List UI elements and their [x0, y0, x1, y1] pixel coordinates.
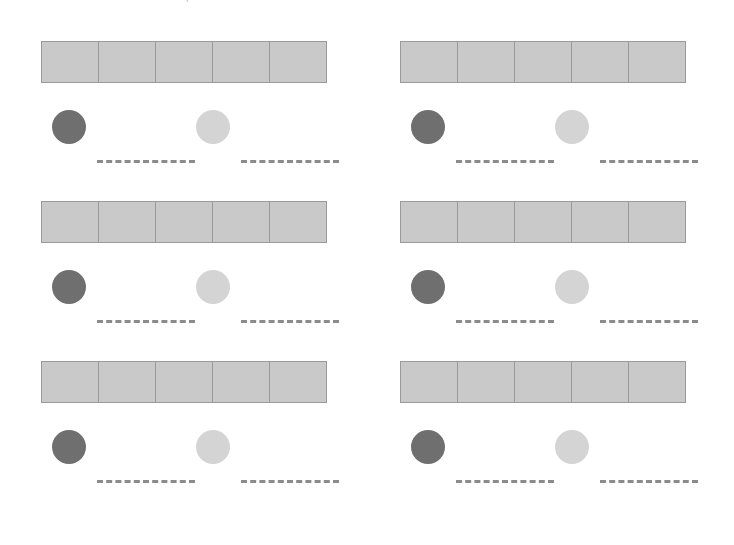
answer-row: [397, 110, 707, 168]
square-cell[interactable]: [571, 41, 629, 83]
square-strip: [400, 361, 686, 403]
exercise-group: [38, 38, 348, 178]
square-cell[interactable]: [457, 361, 515, 403]
answer-line[interactable]: [600, 160, 698, 163]
answer-slot: [411, 430, 559, 488]
answer-line[interactable]: [97, 160, 195, 163]
square-cell[interactable]: [98, 361, 156, 403]
square-cell[interactable]: [212, 201, 270, 243]
exercise-group: [38, 198, 348, 338]
answer-line[interactable]: [241, 160, 339, 163]
dark-token-circle-icon[interactable]: [411, 430, 445, 464]
answer-slot: [196, 430, 344, 488]
dark-token-circle-icon[interactable]: [411, 110, 445, 144]
square-cell[interactable]: [41, 201, 99, 243]
square-cell[interactable]: [628, 361, 686, 403]
answer-slot: [555, 270, 703, 328]
answer-slot: [52, 270, 200, 328]
square-strip: [400, 201, 686, 243]
square-strip: [41, 201, 327, 243]
square-cell[interactable]: [571, 201, 629, 243]
answer-slot: [52, 110, 200, 168]
square-cell[interactable]: [457, 201, 515, 243]
square-cell[interactable]: [269, 361, 327, 403]
square-cell[interactable]: [155, 201, 213, 243]
square-cell[interactable]: [155, 361, 213, 403]
answer-row: [397, 430, 707, 488]
light-token-circle-icon[interactable]: [196, 270, 230, 304]
square-strip: [400, 41, 686, 83]
answer-row: [397, 270, 707, 328]
square-cell[interactable]: [41, 41, 99, 83]
answer-line[interactable]: [600, 480, 698, 483]
square-cell[interactable]: [269, 41, 327, 83]
answer-row: [38, 430, 348, 488]
square-strip: [41, 361, 327, 403]
answer-slot: [196, 270, 344, 328]
exercise-grid: [0, 0, 734, 545]
square-cell[interactable]: [212, 361, 270, 403]
exercise-group: [38, 358, 348, 498]
answer-row: [38, 110, 348, 168]
square-cell[interactable]: [400, 41, 458, 83]
square-cell[interactable]: [628, 41, 686, 83]
square-cell[interactable]: [514, 361, 572, 403]
square-strip: [41, 41, 327, 83]
exercise-group: [397, 38, 707, 178]
answer-line[interactable]: [456, 160, 554, 163]
answer-line[interactable]: [600, 320, 698, 323]
answer-line[interactable]: [97, 320, 195, 323]
square-cell[interactable]: [41, 361, 99, 403]
square-cell[interactable]: [155, 41, 213, 83]
dark-token-circle-icon[interactable]: [411, 270, 445, 304]
dark-token-circle-icon[interactable]: [52, 430, 86, 464]
square-cell[interactable]: [98, 41, 156, 83]
answer-slot: [555, 110, 703, 168]
dark-token-circle-icon[interactable]: [52, 270, 86, 304]
square-cell[interactable]: [98, 201, 156, 243]
light-token-circle-icon[interactable]: [196, 110, 230, 144]
answer-line[interactable]: [241, 320, 339, 323]
square-cell[interactable]: [514, 41, 572, 83]
light-token-circle-icon[interactable]: [196, 430, 230, 464]
exercise-group: [397, 358, 707, 498]
light-token-circle-icon[interactable]: [555, 430, 589, 464]
answer-row: [38, 270, 348, 328]
square-cell[interactable]: [269, 201, 327, 243]
answer-line[interactable]: [456, 320, 554, 323]
answer-slot: [52, 430, 200, 488]
answer-slot: [411, 110, 559, 168]
answer-line[interactable]: [456, 480, 554, 483]
dark-token-circle-icon[interactable]: [52, 110, 86, 144]
answer-line[interactable]: [241, 480, 339, 483]
square-cell[interactable]: [400, 201, 458, 243]
light-token-circle-icon[interactable]: [555, 110, 589, 144]
light-token-circle-icon[interactable]: [555, 270, 589, 304]
square-cell[interactable]: [457, 41, 515, 83]
square-cell[interactable]: [212, 41, 270, 83]
square-cell[interactable]: [628, 201, 686, 243]
exercise-group: [397, 198, 707, 338]
answer-slot: [555, 430, 703, 488]
square-cell[interactable]: [400, 361, 458, 403]
answer-slot: [196, 110, 344, 168]
answer-line[interactable]: [97, 480, 195, 483]
square-cell[interactable]: [571, 361, 629, 403]
answer-slot: [411, 270, 559, 328]
square-cell[interactable]: [514, 201, 572, 243]
